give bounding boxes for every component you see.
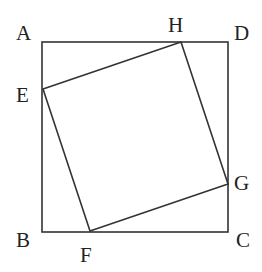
label-c: C bbox=[236, 228, 250, 252]
label-e: E bbox=[16, 83, 29, 107]
inner-square-efgh bbox=[43, 42, 228, 231]
label-d: D bbox=[234, 21, 249, 45]
label-a: A bbox=[16, 21, 32, 45]
label-f: F bbox=[80, 243, 92, 267]
geometry-diagram: A B C D E F G H bbox=[0, 0, 262, 272]
outer-square-abcd bbox=[42, 42, 228, 232]
label-h: H bbox=[168, 13, 183, 37]
label-g: G bbox=[234, 171, 249, 195]
label-b: B bbox=[16, 228, 30, 252]
